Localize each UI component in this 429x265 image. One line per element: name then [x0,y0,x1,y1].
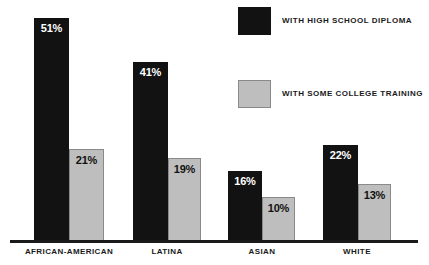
legend-swatch-light-icon [238,80,271,108]
bar-white-college: 13% [358,184,391,241]
x-axis-label-african-american: AFRICAN-AMERICAN [14,247,124,256]
chart-legend: WITH HIGH SCHOOL DIPLOMA WITH SOME COLLE… [238,7,428,79]
bar-value-label: 22% [323,149,358,161]
x-axis-label-white: WHITE [312,247,402,256]
legend-item-high-school-diploma: WITH HIGH SCHOOL DIPLOMA [238,7,428,43]
bar-white-diploma: 22% [323,145,358,241]
bar-asian-college: 10% [262,197,295,241]
legend-item-some-college-training: WITH SOME COLLEGE TRAINING [238,43,428,79]
legend-label: WITH SOME COLLEGE TRAINING [282,89,423,98]
bar-chart: 51% 21% 41% 19% 16% 10% 22% 13% AFRICAN-… [0,0,429,265]
bar-african-american-diploma: 51% [34,18,69,241]
legend-swatch-dark-icon [238,7,271,35]
bar-value-label: 16% [228,175,262,187]
bar-latina-diploma: 41% [133,62,168,241]
bar-value-label: 13% [359,189,390,201]
legend-label: WITH HIGH SCHOOL DIPLOMA [282,16,412,25]
x-axis-label-latina: LATINA [122,247,212,256]
bar-value-label: 19% [169,163,200,175]
bar-value-label: 41% [133,66,168,78]
bar-asian-diploma: 16% [228,171,262,241]
bar-value-label: 51% [34,22,69,34]
bar-value-label: 10% [263,202,294,214]
bar-latina-college: 19% [168,158,201,241]
bar-african-american-college: 21% [69,149,104,241]
bar-value-label: 21% [70,154,103,166]
x-axis-line [10,240,418,243]
x-axis-label-asian: ASIAN [217,247,307,256]
